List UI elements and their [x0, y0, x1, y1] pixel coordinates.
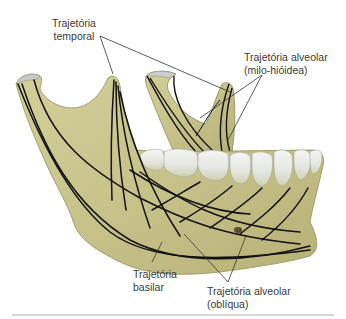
- label-trajetoria-temporal: Trajetória temporal: [52, 17, 96, 42]
- label-trajetoria-alveolar-obliqua: Trajetória alveolar (oblíqua): [207, 285, 291, 310]
- far-ramus: [145, 71, 234, 156]
- mental-foramen: [234, 227, 242, 233]
- label-trajetoria-alveolar-milo-hioidea: Trajetória alveolar (milo-hióidea): [244, 51, 328, 76]
- divider-line: [12, 314, 334, 316]
- label-trajetoria-basilar: Trajetória basilar: [133, 268, 177, 293]
